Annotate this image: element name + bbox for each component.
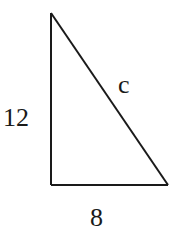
right-triangle-diagram: 12 8 c	[0, 0, 183, 235]
horizontal-leg-label: 8	[90, 203, 103, 232]
vertical-leg-label: 12	[3, 103, 29, 132]
hypotenuse-label: c	[118, 70, 130, 99]
hypotenuse	[51, 13, 168, 185]
